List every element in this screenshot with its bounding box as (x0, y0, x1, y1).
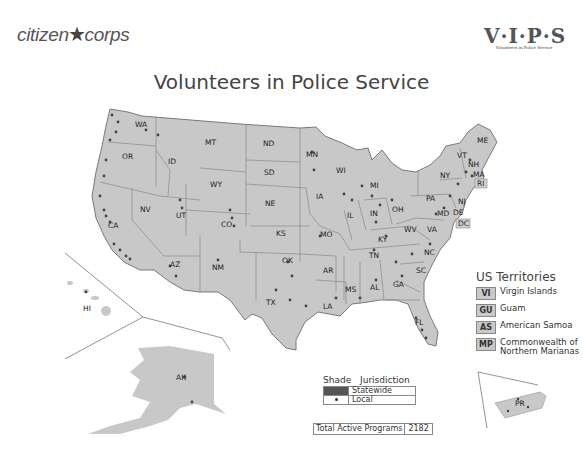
state-label-nj: NJ (458, 197, 466, 206)
state-label-dc: DC (458, 219, 469, 228)
state-label-mn: MN (306, 150, 318, 159)
state-label-ms: MS (345, 285, 356, 294)
state-label-il: IL (347, 211, 354, 220)
state-label-ri: RI (477, 179, 484, 188)
state-label-ny: NY (440, 171, 451, 180)
territory-name: Guam (500, 304, 525, 313)
state-label-ky: KY (378, 235, 388, 244)
state-label-tn: TN (368, 251, 379, 260)
dot-icon (335, 398, 338, 401)
state-label-pr: PR (515, 399, 525, 408)
state-label-ca: CA (108, 221, 119, 230)
state-label-ut: UT (176, 211, 186, 220)
legend-label: Local (349, 396, 416, 405)
state-label-id: ID (168, 157, 176, 166)
state-label-ak: AK (176, 373, 187, 382)
territory-name: Virgin Islands (500, 287, 557, 296)
state-label-nm: NM (212, 263, 224, 272)
state-label-or: OR (122, 152, 133, 161)
territory-item: AS American Samoa (476, 321, 580, 334)
state-label-nc: NC (424, 248, 435, 257)
state-label-mi: MI (370, 181, 379, 190)
state-label-ks: KS (276, 229, 286, 238)
state-label-ma: MA (473, 170, 485, 179)
state-label-sd: SD (264, 168, 275, 177)
state-label-wa: WA (135, 120, 148, 129)
state-label-fl: FL (415, 318, 424, 327)
territory-code: AS (476, 321, 496, 334)
state-label-ar: AR (323, 266, 333, 275)
state-label-wv: WV (404, 225, 417, 234)
state-label-wi: WI (336, 166, 346, 175)
legend-table: Statewide Local (323, 386, 416, 405)
state-label-tx: TX (265, 298, 276, 307)
territory-code: GU (476, 304, 496, 317)
territory-code: MP (476, 338, 496, 351)
state-label-la: LA (323, 302, 333, 311)
legend-col-jurisdiction: Jurisdiction (360, 375, 410, 385)
state-label-wy: WY (210, 180, 222, 189)
state-label-ok: OK (282, 256, 294, 265)
map-legend: Shade Jurisdiction Statewide Local (323, 375, 416, 405)
state-label-de: DE (453, 208, 464, 217)
state-label-nh: NH (468, 160, 479, 169)
state-label-vt: VT (457, 151, 467, 160)
state-label-ne: NE (265, 199, 276, 208)
alaska-shape (88, 346, 226, 434)
state-label-mo: MO (320, 230, 332, 239)
state-label-in: IN (370, 209, 378, 218)
territory-name: Commonwealth of Northern Marianas (500, 338, 580, 356)
territory-name: American Samoa (500, 321, 572, 330)
territories-title: US Territories (476, 270, 580, 284)
state-label-mt: MT (205, 138, 216, 147)
state-label-me: ME (477, 136, 488, 145)
state-label-al: AL (370, 283, 380, 292)
legend-col-shade: Shade (323, 375, 351, 385)
state-label-az: AZ (170, 260, 180, 269)
total-value: 2182 (405, 424, 431, 434)
state-label-oh: OH (392, 205, 404, 214)
state-label-nv: NV (140, 205, 152, 214)
state-label-va: VA (427, 225, 438, 234)
state-label-sc: SC (416, 266, 426, 275)
total-active-programs: Total Active Programs 2182 (313, 423, 433, 435)
state-label-pa: PA (426, 194, 436, 203)
state-label-co: CO (221, 220, 232, 229)
us-territories-panel: US Territories VI Virgin Islands GU Guam… (476, 270, 580, 360)
state-label-ia: IA (316, 192, 324, 201)
state-label-ga: GA (393, 280, 405, 289)
territory-item: MP Commonwealth of Northern Marianas (476, 338, 580, 356)
state-label-md: MD (437, 209, 449, 218)
territory-item: VI Virgin Islands (476, 287, 580, 300)
us-map: WA OR ID MT WY ND SD NE MN WI IA NV UT C… (0, 0, 583, 453)
statewide-swatch (324, 387, 349, 396)
territory-code: VI (476, 287, 496, 300)
legend-header: Shade Jurisdiction (323, 375, 416, 385)
state-label-nd: ND (263, 139, 275, 148)
local-dot-cell (324, 396, 349, 405)
state-label-hi: HI (83, 304, 91, 313)
territory-item: GU Guam (476, 304, 580, 317)
legend-row-local: Local (324, 396, 416, 405)
total-label: Total Active Programs (314, 424, 405, 434)
